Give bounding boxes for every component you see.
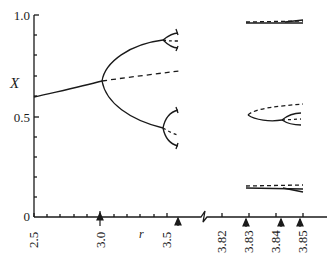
x-tick-2-5: 2.5	[26, 232, 41, 248]
y-tick-1-0: 1.0	[14, 8, 30, 23]
x-tick-3-84: 3.84	[268, 230, 283, 253]
x-tick-3-82: 3.82	[214, 230, 229, 253]
y-tick-labels: 1.0 0.5 0	[14, 8, 30, 224]
y-axis-label: X	[9, 75, 20, 91]
x-tick-3-83: 3.83	[241, 230, 256, 253]
bifurcation-curves-right	[246, 20, 303, 192]
bifurcation-arrow-markers	[97, 211, 303, 227]
y-tick-0-5: 0.5	[14, 110, 30, 125]
x-tick-labels: 2.5 3.0 3.5 3.82 3.83 3.84 3.85	[26, 230, 310, 253]
x-tick-3-0: 3.0	[93, 232, 108, 248]
bifurcation-curves-left	[34, 29, 179, 149]
bifurcation-chart: 1.0 0.5 0 2.5 3.0 3.5 3.82 3.83 3.84 3.8…	[0, 0, 335, 261]
x-tick-3-5: 3.5	[159, 232, 174, 248]
y-axis	[34, 15, 39, 217]
x-axis	[34, 211, 327, 222]
x-axis-label: r	[139, 227, 144, 241]
y-tick-0: 0	[24, 209, 31, 224]
x-tick-3-85: 3.85	[295, 230, 310, 253]
